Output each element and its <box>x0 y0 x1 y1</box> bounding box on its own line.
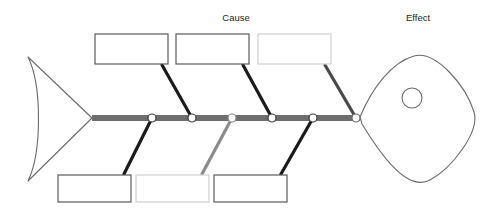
cause-heading-label: Cause <box>222 12 249 23</box>
top-bones-group <box>162 65 356 118</box>
bottom-bone-3 <box>281 118 313 174</box>
fish-tail-shape <box>28 57 92 181</box>
spine-joint-3[interactable] <box>228 114 236 122</box>
spine-joint-6[interactable] <box>352 114 360 122</box>
bottom-bone-2 <box>202 118 232 174</box>
top-bone-2 <box>243 65 272 118</box>
bottom-cause-box-1[interactable] <box>58 175 131 202</box>
fish-eye-icon <box>402 88 422 108</box>
fishbone-canvas: Cause Effect <box>0 0 499 217</box>
spine-joint-1[interactable] <box>148 114 156 122</box>
fish-head-shape <box>360 55 475 182</box>
fish-tail-group <box>28 57 92 181</box>
top-cause-box-2[interactable] <box>176 34 249 64</box>
bottom-cause-box-3[interactable] <box>214 175 287 202</box>
effect-heading-label: Effect <box>406 12 430 23</box>
top-cause-box-1[interactable] <box>95 34 168 64</box>
fish-head-group <box>360 55 475 182</box>
top-bone-3 <box>325 65 356 118</box>
bottom-bones-group <box>124 118 313 174</box>
spine-joint-2[interactable] <box>188 114 196 122</box>
spine-joint-4[interactable] <box>268 114 276 122</box>
fishbone-diagram: Cause Effect <box>0 0 499 217</box>
spine-joint-5[interactable] <box>309 114 317 122</box>
top-cause-box-3[interactable] <box>258 34 331 64</box>
top-bone-1 <box>162 65 192 118</box>
bottom-bone-1 <box>124 118 152 174</box>
top-boxes-group <box>95 34 331 64</box>
bottom-boxes-group <box>58 175 287 202</box>
bottom-cause-box-2[interactable] <box>136 175 209 202</box>
